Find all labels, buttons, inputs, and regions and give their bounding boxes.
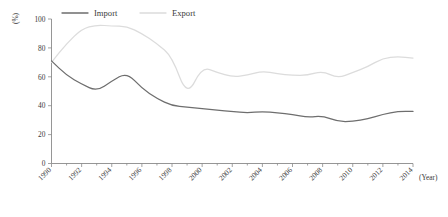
legend-label-import: Import bbox=[94, 8, 118, 18]
x-tick-label: 2014 bbox=[398, 165, 415, 182]
y-tick-label: 40 bbox=[38, 101, 46, 110]
y-tick-label: 60 bbox=[38, 73, 46, 82]
x-tick-label: 1992 bbox=[66, 165, 83, 182]
y-tick-label: 20 bbox=[38, 130, 46, 139]
x-tick-label: 1990 bbox=[36, 165, 53, 182]
x-axis-title: (Year) bbox=[419, 173, 438, 182]
chart-series-group bbox=[52, 25, 414, 121]
chart-container: Import Export (%) 020406080100 199019921… bbox=[0, 0, 448, 217]
y-axis-ticks: 020406080100 bbox=[34, 15, 51, 169]
y-axis-title: (%) bbox=[11, 12, 20, 24]
y-tick-label: 100 bbox=[34, 15, 45, 24]
x-tick-label: 2002 bbox=[217, 165, 234, 182]
x-tick-label: 2000 bbox=[187, 165, 204, 182]
x-tick-label: 2008 bbox=[307, 165, 324, 182]
x-tick-label: 2012 bbox=[367, 165, 384, 182]
x-tick-label: 2006 bbox=[277, 165, 294, 182]
x-tick-label: 1996 bbox=[126, 165, 143, 182]
series-line-export bbox=[52, 25, 414, 88]
line-chart: Import Export (%) 020406080100 199019921… bbox=[0, 0, 448, 217]
x-axis-ticks: 1990199219941996199820002002200420062008… bbox=[36, 164, 415, 183]
x-tick-label: 2004 bbox=[247, 165, 264, 182]
chart-legend: Import Export bbox=[62, 8, 196, 18]
x-tick-label: 2010 bbox=[337, 165, 354, 182]
x-tick-label: 1994 bbox=[96, 165, 113, 182]
y-tick-label: 80 bbox=[38, 44, 46, 53]
legend-label-export: Export bbox=[172, 8, 196, 18]
x-tick-label: 1998 bbox=[157, 165, 174, 182]
